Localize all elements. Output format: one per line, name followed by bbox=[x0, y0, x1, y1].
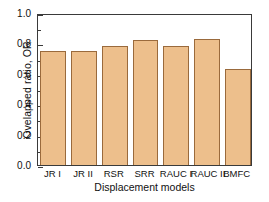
x-tick-label: JR I bbox=[37, 168, 68, 179]
bar-jr-i bbox=[40, 51, 66, 165]
y-axis-tick-labels: 0.00.20.40.60.81.0 bbox=[0, 0, 34, 202]
y-tick-label: 0.8 bbox=[17, 39, 31, 49]
bar-chart: Ovelapped ratio, OR 0.00.20.40.60.81.0 J… bbox=[0, 0, 269, 202]
x-tick-label: RSR bbox=[98, 168, 129, 179]
y-tick-label: 0.6 bbox=[17, 70, 31, 80]
bar-rsr bbox=[102, 46, 128, 165]
y-tick-label: 0.2 bbox=[17, 131, 31, 141]
y-tick-label: 0.4 bbox=[17, 100, 31, 110]
bar-bmfc bbox=[225, 69, 251, 165]
bar-jr-ii bbox=[71, 51, 97, 165]
bar-rauc-ii bbox=[194, 39, 220, 165]
x-tick-label: JR II bbox=[68, 168, 99, 179]
plot-area bbox=[37, 14, 252, 166]
x-tick-label: SRR bbox=[129, 168, 160, 179]
bar-rauc-i bbox=[163, 46, 189, 165]
x-tick-label: RAUC I bbox=[160, 168, 191, 179]
x-axis-tick-labels: JR IJR IIRSRSRRRAUC IRAUC IIBMFC bbox=[37, 168, 252, 181]
bar-srr bbox=[133, 40, 159, 165]
y-tick-label: 0.0 bbox=[17, 161, 31, 171]
x-axis-label: Displacement models bbox=[37, 181, 252, 193]
y-tick-label: 1.0 bbox=[17, 9, 31, 19]
bar-series bbox=[38, 15, 251, 165]
x-tick-label: RAUC II bbox=[191, 168, 222, 179]
x-tick-label: BMFC bbox=[221, 168, 252, 179]
